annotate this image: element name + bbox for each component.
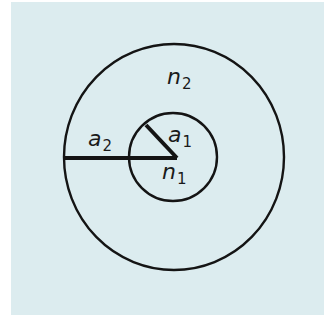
inner-radius-label: a1 (168, 124, 192, 150)
inner-region-label-sub: 1 (177, 170, 187, 188)
inner-radius-label-sub: 1 (182, 133, 192, 151)
outer-region-label-sub: 2 (182, 75, 192, 93)
inner-radius-label-var: a (168, 122, 181, 147)
inner-region-label: n1 (162, 161, 187, 187)
outer-radius-label-var: a (88, 126, 101, 151)
outer-radius-label: a2 (88, 128, 112, 154)
outer-region-label: n2 (167, 66, 192, 92)
inner-region-label-var: n (162, 159, 176, 184)
outer-region-label-var: n (167, 64, 181, 89)
outer-radius-label-sub: 2 (102, 137, 112, 155)
